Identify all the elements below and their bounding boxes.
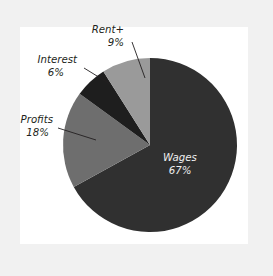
pie-label-interest-percent: 6% (48, 67, 64, 78)
pie-label-rent-name: Rent+ (92, 24, 124, 35)
pie-label-interest: Interest 6% (38, 54, 78, 78)
figure-root: Rent+ 9% Interest 6% Profits 18% Wages 6… (0, 0, 273, 276)
pie-label-rent-percent: 9% (108, 37, 124, 48)
pie-label-wages-percent: 67% (169, 165, 192, 176)
pie-label-profits-percent: 18% (26, 127, 49, 138)
pie-slices (63, 58, 237, 232)
pie-chart: Rent+ 9% Interest 6% Profits 18% Wages 6… (0, 0, 273, 276)
pie-label-profits-name: Profits (21, 114, 54, 125)
pie-label-wages-name: Wages (163, 152, 197, 163)
pie-label-rent: Rent+ 9% (92, 24, 124, 48)
pie-label-interest-name: Interest (38, 54, 78, 65)
pie-label-profits: Profits 18% (21, 114, 54, 138)
